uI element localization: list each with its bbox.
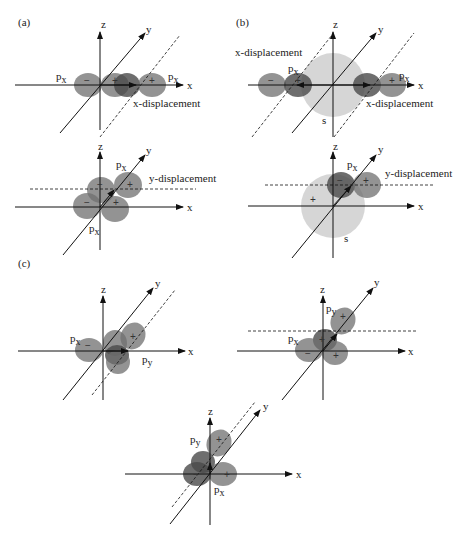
z-axis-label: z: [320, 283, 325, 295]
py-label: py: [190, 433, 201, 448]
sign-minus: −: [84, 75, 90, 86]
panel-label-b: (b): [236, 16, 249, 29]
panel-a-bottom: z y x px px y-displacement − + − +: [15, 140, 216, 255]
panel-label-a: (a): [18, 16, 31, 29]
sign-minus: −: [193, 469, 199, 480]
x-axis-label: x: [408, 345, 414, 357]
y-axis-label: y: [146, 23, 152, 35]
y-axis-label: y: [378, 143, 384, 155]
orbital-overlap-diagram: (a) z y x px px − + + x-displacement (b): [0, 0, 465, 539]
px-label: px: [347, 158, 358, 173]
panel-c-left: (c) z y x px py − +: [18, 257, 194, 400]
sign-plus: +: [149, 75, 155, 86]
panel-b-top: (b) z y x x-displacement px px − + + x-d…: [235, 16, 433, 137]
y-axis-label: y: [374, 276, 380, 288]
x-axis-label: x: [296, 468, 302, 480]
panel-label-c: (c): [18, 257, 31, 270]
sign-plus: +: [127, 179, 133, 190]
x-axis-label: x: [187, 79, 193, 91]
x-axis-label: x: [188, 345, 194, 357]
x-axis-label: x: [418, 79, 424, 91]
x-axis-label: x: [418, 200, 424, 212]
y-axis: [170, 410, 260, 524]
px-label-left: px: [56, 70, 67, 85]
y-axis-label: y: [263, 400, 269, 412]
z-axis-label: z: [333, 18, 338, 30]
sign-plus: +: [224, 469, 230, 480]
sign-plus: +: [340, 311, 346, 322]
py-label: py: [326, 302, 337, 317]
z-axis-label: z: [208, 405, 213, 417]
x-axis-label: x: [187, 201, 193, 213]
s-orbital-label: s: [322, 114, 326, 126]
panel-b-bottom: z y x px y-displacement − + + s: [248, 140, 452, 258]
px-label-upper: px: [116, 158, 127, 173]
x-displacement-label-left: x-displacement: [235, 46, 302, 58]
z-axis-label: z: [98, 140, 103, 152]
sign-plus: +: [310, 194, 316, 205]
z-axis-label: z: [101, 283, 106, 295]
z-axis-label: z: [333, 140, 338, 152]
sign-plus: +: [113, 197, 119, 208]
sign-minus: −: [337, 175, 343, 186]
s-orbital-label: s: [344, 232, 348, 244]
sign-minus: −: [84, 197, 90, 208]
sign-plus: +: [333, 350, 339, 361]
sign-plus: +: [130, 331, 136, 342]
px-label-lower: px: [89, 222, 100, 237]
sign-minus: −: [305, 348, 311, 359]
px-label-right: px: [168, 70, 179, 85]
sign-minus: −: [85, 340, 91, 351]
y-displacement-label: y-displacement: [385, 167, 452, 179]
sign-plus: +: [216, 434, 222, 445]
y-axis-label: y: [155, 277, 161, 289]
y-axis-label: y: [146, 144, 152, 156]
z-axis-label: z: [101, 18, 106, 30]
panel-c-right: z y x py px + + − +: [237, 276, 418, 400]
panel-a-top: (a) z y x px px − + + x-displacement: [15, 16, 200, 137]
sign-plus: +: [319, 334, 325, 345]
y-axis-label: y: [378, 23, 384, 35]
panel-c-bottom: z y x py px + + −: [125, 400, 302, 525]
sign-plus: +: [295, 75, 301, 86]
sign-plus: +: [363, 175, 369, 186]
x-displacement-label: x-displacement: [133, 97, 200, 109]
py-label: py: [142, 353, 153, 368]
y-displacement-label: y-displacement: [149, 172, 216, 184]
sign-plus: +: [389, 75, 395, 86]
px-label: px: [288, 332, 299, 347]
x-displacement-label-right: x-displacement: [366, 97, 433, 109]
sign-minus: −: [268, 75, 274, 86]
sign-minus: −: [97, 179, 103, 190]
px-label: px: [70, 332, 81, 347]
sign-plus: +: [112, 75, 118, 86]
